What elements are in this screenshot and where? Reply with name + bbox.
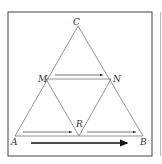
diagram-canvas: C M N R A B — [0, 0, 162, 164]
label-N: N — [112, 74, 122, 84]
triangle-diagram: C M N R A B — [0, 0, 162, 164]
label-R: R — [75, 119, 83, 129]
segment-NR — [79, 79, 111, 136]
label-C: C — [73, 17, 80, 27]
adjacent-frame-edge — [160, 12, 161, 156]
label-M: M — [37, 74, 48, 84]
label-A: A — [10, 137, 18, 147]
label-B: B — [139, 137, 147, 147]
segment-MR — [46, 79, 79, 136]
segment-BC — [78, 26, 143, 136]
